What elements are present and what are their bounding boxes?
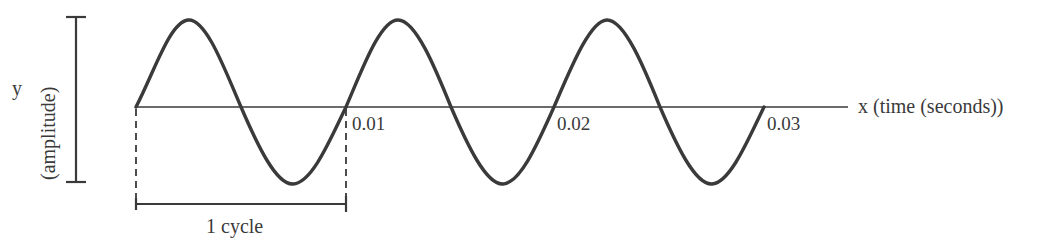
y-axis-symbol: y (12, 78, 22, 98)
amplitude-bracket (66, 17, 86, 182)
x-tick-label: 0.02 (557, 114, 590, 133)
x-tick-label: 0.03 (767, 114, 800, 133)
y-axis-label: (amplitude) (38, 87, 58, 180)
sine-wave-diagram: y (amplitude) 0.01 0.02 0.03 x (time (se… (0, 0, 1054, 250)
cycle-bracket (136, 196, 346, 212)
x-axis-label: x (time (seconds)) (858, 96, 1004, 116)
diagram-canvas (0, 0, 1054, 250)
cycle-label: 1 cycle (206, 216, 263, 236)
x-tick-label: 0.01 (352, 114, 385, 133)
sine-wave-curve (136, 20, 764, 184)
